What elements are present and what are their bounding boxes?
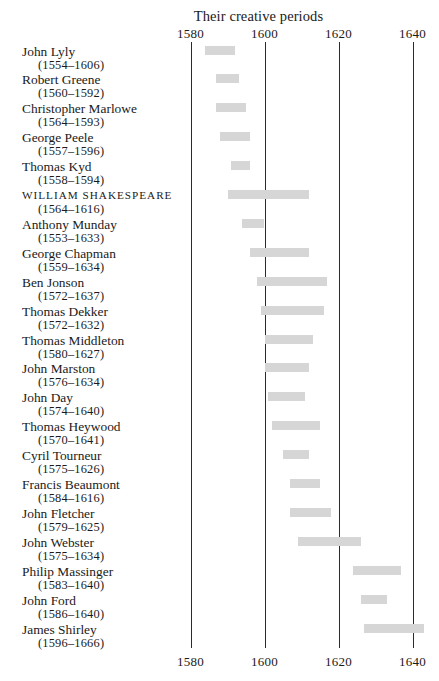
person-name: Thomas Middleton (22, 333, 124, 348)
person-name: WILLIAM SHAKESPEARE (22, 188, 172, 203)
person-lifespan-dates: (1557–1596) (38, 144, 104, 159)
person-name: Ben Jonson (22, 275, 84, 290)
creative-period-bar (250, 248, 309, 257)
timeline-row: George Chapman(1559–1634) (0, 246, 439, 275)
timeline-row: Thomas Heywood(1570–1641) (0, 419, 439, 448)
person-lifespan-dates: (1570–1641) (38, 433, 104, 448)
timeline-row: Philip Massinger(1583–1640) (0, 564, 439, 593)
timeline-row: Ben Jonson(1572–1637) (0, 275, 439, 304)
creative-period-bar (361, 595, 387, 604)
creative-period-bar (265, 335, 313, 344)
axis-tick-label-bottom-1620: 1620 (325, 654, 352, 670)
timeline-rows: John Lyly(1554–1606)Robert Greene(1560–1… (0, 0, 439, 681)
person-name: Robert Greene (22, 72, 100, 87)
person-name: James Shirley (22, 622, 97, 637)
timeline-row: John Fletcher(1579–1625) (0, 506, 439, 535)
timeline-row: John Ford(1586–1640) (0, 593, 439, 622)
creative-period-bar (290, 508, 331, 517)
person-name: John Webster (22, 535, 94, 550)
person-name: Philip Massinger (22, 564, 113, 579)
timeline-row: Thomas Middleton(1580–1627) (0, 333, 439, 362)
person-lifespan-dates: (1572–1632) (38, 318, 104, 333)
creative-period-bar (272, 421, 320, 430)
creative-period-bar (268, 392, 305, 401)
person-name: Cyril Tourneur (22, 448, 102, 463)
timeline-row: Francis Beaumont(1584–1616) (0, 477, 439, 506)
creative-period-bar (220, 132, 250, 141)
person-name: Thomas Kyd (22, 159, 92, 174)
creative-period-bar (265, 363, 309, 372)
person-name: Anthony Munday (22, 217, 117, 232)
timeline-row: Cyril Tourneur(1575–1626) (0, 448, 439, 477)
person-lifespan-dates: (1580–1627) (38, 347, 104, 362)
timeline-row: John Marston(1576–1634) (0, 361, 439, 390)
person-lifespan-dates: (1574–1640) (38, 404, 104, 419)
person-lifespan-dates: (1575–1626) (38, 462, 104, 477)
timeline-row: George Peele(1557–1596) (0, 130, 439, 159)
timeline-row: James Shirley(1596–1666) (0, 622, 439, 651)
person-name: George Chapman (22, 246, 116, 261)
person-lifespan-dates: (1560–1592) (38, 86, 104, 101)
axis-tick-label-bottom-1580: 1580 (177, 654, 204, 670)
person-name: George Peele (22, 130, 94, 145)
person-name: John Marston (22, 361, 95, 376)
creative-period-bar (228, 190, 309, 199)
creative-period-bar (205, 46, 235, 55)
creative-period-bar (231, 161, 250, 170)
timeline-row: John Lyly(1554–1606) (0, 44, 439, 73)
timeline-row: Thomas Kyd(1558–1594) (0, 159, 439, 188)
person-name: Christopher Marlowe (22, 101, 137, 116)
person-lifespan-dates: (1584–1616) (38, 491, 104, 506)
timeline-row: Robert Greene(1560–1592) (0, 72, 439, 101)
person-lifespan-dates: (1564–1593) (38, 115, 104, 130)
person-lifespan-dates: (1564–1616) (38, 202, 104, 217)
axis-tick-label-bottom-1600: 1600 (251, 654, 278, 670)
creative-period-bar (290, 479, 320, 488)
person-lifespan-dates: (1572–1637) (38, 289, 104, 304)
creative-period-bar (261, 306, 324, 315)
person-lifespan-dates: (1553–1633) (38, 231, 104, 246)
timeline-row: Anthony Munday(1553–1633) (0, 217, 439, 246)
person-name: Francis Beaumont (22, 477, 120, 492)
creative-period-bar (216, 103, 246, 112)
axis-tick-label-bottom-1640: 1640 (399, 654, 426, 670)
person-lifespan-dates: (1583–1640) (38, 578, 104, 593)
person-name: Thomas Heywood (22, 419, 121, 434)
person-lifespan-dates: (1559–1634) (38, 260, 104, 275)
person-name: John Ford (22, 593, 76, 608)
creative-period-bar (257, 277, 327, 286)
creative-period-bar (353, 566, 401, 575)
timeline-row: John Webster(1575–1634) (0, 535, 439, 564)
timeline-row: Thomas Dekker(1572–1632) (0, 304, 439, 333)
person-lifespan-dates: (1579–1625) (38, 520, 104, 535)
creative-periods-timeline-chart: Their creative periods 1580160016201640 … (0, 0, 439, 681)
timeline-row: John Day(1574–1640) (0, 390, 439, 419)
creative-period-bar (298, 537, 361, 546)
person-lifespan-dates: (1586–1640) (38, 607, 104, 622)
person-lifespan-dates: (1596–1666) (38, 636, 104, 651)
person-lifespan-dates: (1576–1634) (38, 375, 104, 390)
creative-period-bar (364, 624, 423, 633)
timeline-row: Christopher Marlowe(1564–1593) (0, 101, 439, 130)
person-name: John Day (22, 390, 73, 405)
creative-period-bar (242, 219, 264, 228)
person-lifespan-dates: (1558–1594) (38, 173, 104, 188)
person-name: Thomas Dekker (22, 304, 108, 319)
timeline-row: WILLIAM SHAKESPEARE(1564–1616) (0, 188, 439, 217)
creative-period-bar (283, 450, 309, 459)
person-lifespan-dates: (1575–1634) (38, 549, 104, 564)
person-name: John Lyly (22, 44, 75, 59)
person-name: John Fletcher (22, 506, 95, 521)
creative-period-bar (216, 74, 238, 83)
person-lifespan-dates: (1554–1606) (38, 58, 104, 73)
